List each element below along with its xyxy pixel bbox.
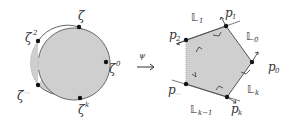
label-zeta-dots-exp: ··· <box>24 89 30 96</box>
label-L1: 𝕃 <box>191 11 199 24</box>
label-zeta-2-exp: 2 <box>32 29 38 37</box>
label-p2-sub: 2 <box>175 35 181 43</box>
label-p1-sub: 1 <box>232 13 236 21</box>
map-arrow: ψ <box>137 51 154 70</box>
label-psi: ψ <box>139 51 146 60</box>
label-L0-sub: 0 <box>254 36 259 44</box>
diagram-canvas: ζ ζ 2 ζ 0 ζ k ζ ··· ψ <box>0 0 292 121</box>
label-p0-sub: 0 <box>275 67 280 75</box>
label-zeta-2: ζ <box>25 31 33 45</box>
disk <box>30 25 110 100</box>
label-L0: 𝕃 <box>246 30 254 43</box>
label-Lk-minus-1: 𝕃 <box>190 103 198 116</box>
label-Lk: 𝕃 <box>247 83 255 96</box>
label-Lk-sub: k <box>255 89 259 97</box>
label-p-dots-sub: ··· <box>175 90 181 97</box>
pentagon <box>172 21 252 101</box>
label-zeta-k-exp: k <box>85 101 89 109</box>
label-L1-sub: 1 <box>199 17 203 25</box>
label-zeta-0-exp: 0 <box>116 60 121 68</box>
label-zeta: ζ <box>78 9 86 23</box>
label-Lk-minus-1-sub: k−1 <box>198 109 213 117</box>
label-pk-sub: k <box>238 109 242 117</box>
